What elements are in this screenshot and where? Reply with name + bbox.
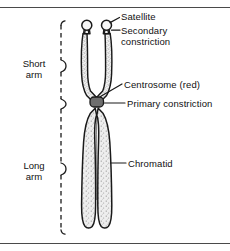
arm-span-bracket [61, 21, 66, 234]
label-satellite: Satellite [121, 11, 156, 22]
label-long-arm-line2: arm [12, 171, 56, 183]
label-secondary-constriction-line2: constriction [121, 36, 170, 47]
chromosome-body [81, 20, 111, 228]
label-long-arm-line1: Long [12, 160, 56, 172]
right-satellite [102, 20, 112, 30]
right-short-arm [94, 34, 112, 105]
left-long-arm [82, 108, 97, 228]
label-primary-constriction: Primary constriction [127, 98, 212, 109]
satellite-leader [110, 18, 120, 23]
label-centrosome: Centrosome (red) [124, 79, 200, 90]
chromosome-drawing [0, 0, 230, 251]
left-short-arm [81, 34, 99, 105]
label-chromatid: Chromatid [128, 158, 173, 169]
label-short-arm-line2: arm [12, 69, 56, 81]
left-satellite [82, 20, 92, 30]
right-long-arm [97, 108, 112, 228]
chromosome-diagram-figure: Satellite Secondary constriction Centros… [0, 0, 230, 251]
centromere [90, 97, 104, 107]
label-short-arm-line1: Short [12, 58, 56, 70]
label-secondary-constriction-line1: Secondary [121, 25, 167, 36]
